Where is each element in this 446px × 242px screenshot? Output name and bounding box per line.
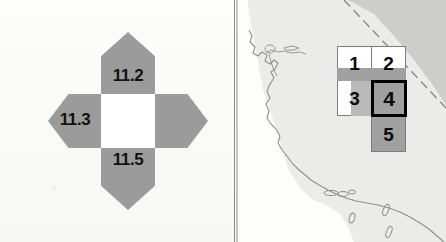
grid-cell-5-label: 5: [383, 125, 394, 144]
grid-cell-1-label: 1: [349, 54, 360, 73]
petal-north-label: 11.2: [101, 66, 155, 86]
petal-south-label: 11.5: [101, 150, 155, 170]
left-panel-compass-rose: 11.2 11.5 11.3: [0, 0, 235, 242]
petal-east: [154, 94, 208, 148]
right-panel-map: 1 2 3 5 4: [236, 0, 446, 242]
panel-divider: [234, 0, 235, 242]
petal-west-label: 11.3: [44, 110, 106, 130]
petal-north: [101, 32, 155, 96]
grid-overlay: 1 2 3 5 4: [337, 46, 405, 152]
grid-cell-2-label: 2: [383, 54, 394, 73]
figure-container: 11.2 11.5 11.3: [0, 0, 446, 242]
grid-cell-3-label: 3: [349, 89, 360, 108]
grid-cell-4-label: 4: [383, 88, 395, 109]
grid-cell-5[interactable]: 5: [371, 116, 406, 152]
center-square: [101, 94, 155, 148]
compass-rose: 11.2 11.5 11.3: [48, 32, 208, 210]
grid-cell-4-highlighted[interactable]: 4: [371, 80, 407, 117]
